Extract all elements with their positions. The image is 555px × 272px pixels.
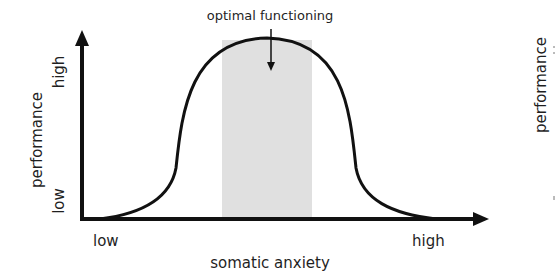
second-panel-y-axis-title: performance (534, 37, 549, 133)
x-axis-arrowhead-icon (473, 212, 489, 226)
diagram-canvas (0, 0, 555, 272)
optimal-functioning-label: optimal functioning (207, 9, 334, 22)
y-axis-high-label: high (52, 56, 67, 89)
y-axis-arrowhead-icon (75, 30, 89, 46)
optimal-zone-shading (222, 40, 312, 218)
inverted-u-diagram: optimal functioning low high somatic anx… (0, 0, 555, 272)
y-axis-title-box: performance (26, 90, 48, 190)
x-axis-title: somatic anxiety (210, 256, 330, 271)
y-axis-title: performance (30, 92, 45, 188)
x-axis-low-label: low (93, 234, 119, 249)
x-axis-high-label: high (412, 234, 445, 249)
second-panel-y-axis-title-box: performance (530, 35, 552, 135)
y-axis-low-label-box: low (48, 184, 70, 218)
y-axis-low-label: low (52, 188, 67, 214)
y-axis-high-label-box: high (48, 52, 70, 92)
